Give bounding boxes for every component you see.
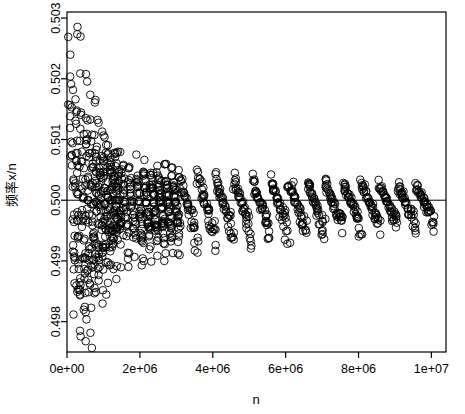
y-tick-label: 0.498 xyxy=(49,306,63,337)
scatter-plot-figure: 0e+002e+064e+066e+068e+061e+07 0.4980.49… xyxy=(0,0,465,414)
y-tick-label: 0.503 xyxy=(49,2,63,33)
x-tick-label: 8e+06 xyxy=(341,362,376,376)
plot-canvas: 0e+002e+064e+066e+068e+061e+07 0.4980.49… xyxy=(0,0,465,414)
y-axis-label: 频率x/n xyxy=(4,163,19,206)
x-axis-label: n xyxy=(252,392,259,407)
y-tick-label: 0.499 xyxy=(49,245,63,276)
y-tick-label: 0.501 xyxy=(49,124,63,155)
x-tick-label: 0e+00 xyxy=(49,362,84,376)
x-tick-label: 4e+06 xyxy=(195,362,230,376)
y-tick-label: 0.502 xyxy=(49,63,63,94)
x-tick-label: 1e+07 xyxy=(414,362,449,376)
y-tick-label: 0.500 xyxy=(49,185,63,216)
x-tick-label: 2e+06 xyxy=(122,362,157,376)
x-tick-label: 6e+06 xyxy=(268,362,303,376)
